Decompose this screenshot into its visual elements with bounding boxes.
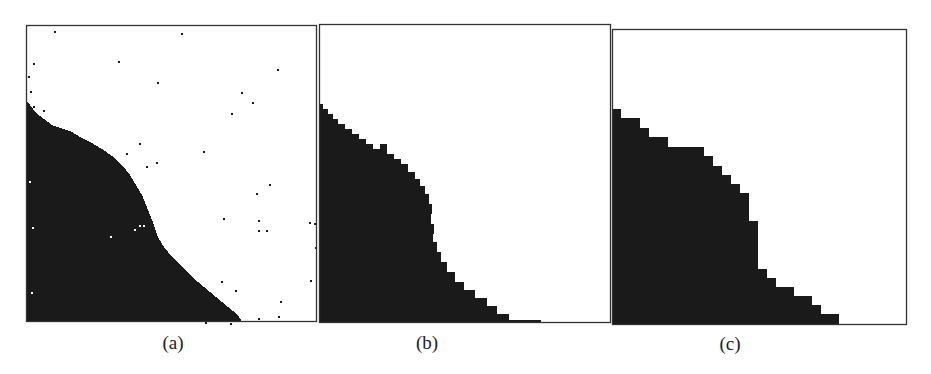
noise-dot (205, 322, 207, 324)
noise-dot (157, 82, 159, 84)
noise-dot (278, 316, 280, 318)
noise-dot (181, 33, 183, 35)
noise-dot (221, 281, 223, 283)
noise-dot (223, 218, 225, 220)
panel-b (319, 24, 611, 323)
panel-b-caption: (b) (397, 333, 457, 353)
panel-c-caption: (c) (700, 334, 760, 354)
panel-a-caption: (a) (143, 333, 203, 353)
noise-dot (269, 184, 271, 186)
noise-hole (139, 225, 141, 227)
panel-a-image (26, 25, 317, 322)
noise-dot (28, 76, 30, 78)
noise-dot (114, 236, 116, 238)
noise-dot (258, 318, 260, 320)
segmented-region (26, 101, 242, 322)
noise-hole (110, 236, 112, 238)
segmented-region (319, 104, 541, 323)
noise-dot (252, 102, 254, 104)
noise-dot (235, 290, 237, 292)
noise-dot (230, 323, 232, 325)
noise-hole (29, 181, 31, 183)
panel-a (26, 25, 317, 322)
noise-dot (266, 230, 268, 232)
noise-dot (309, 222, 311, 224)
noise-dot (43, 110, 45, 112)
noise-hole (143, 225, 145, 227)
noise-dot (38, 117, 40, 119)
noise-dot (314, 223, 316, 225)
panel-c (612, 29, 907, 325)
noise-dot (118, 61, 120, 63)
noise-hole (134, 229, 136, 231)
noise-dot (139, 143, 141, 145)
noise-dot (258, 220, 260, 222)
noise-hole (31, 292, 33, 294)
noise-dot (280, 301, 282, 303)
noise-dot (126, 153, 128, 155)
segmented-region (612, 109, 839, 325)
noise-dot (54, 31, 56, 33)
noise-dot (146, 166, 148, 168)
noise-dot (258, 230, 260, 232)
noise-dot (30, 91, 32, 93)
panel-b-image (319, 24, 611, 323)
noise-dot (310, 280, 312, 282)
noise-dot (33, 63, 35, 65)
noise-dot (156, 162, 158, 164)
panel-c-image (612, 29, 907, 325)
noise-dot (277, 69, 279, 71)
noise-dot (203, 151, 205, 153)
noise-hole (32, 227, 34, 229)
noise-dot (231, 113, 233, 115)
noise-dot (241, 92, 243, 94)
noise-dot (33, 106, 35, 108)
noise-dot (256, 193, 258, 195)
